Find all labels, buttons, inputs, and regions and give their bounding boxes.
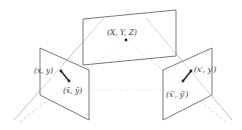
right-point-bar-label: (x̄′, ȳ′) <box>166 90 189 99</box>
world-point <box>125 39 128 42</box>
left-point-bar-label: (x̄, ȳ) <box>63 86 82 95</box>
world-point-label: (X, Y, Z) <box>107 28 137 37</box>
stereo-geometry-diagram: (X, Y, Z) (x, y) (x̄, ȳ) (x′, y′) (x̄′, … <box>0 0 242 130</box>
left-image-plane <box>40 48 89 120</box>
right-point <box>190 70 193 73</box>
left-point <box>60 70 63 73</box>
right-image-plane <box>163 48 212 120</box>
left-point-bar <box>68 80 71 83</box>
right-point-label: (x′, y′) <box>194 65 217 74</box>
left-point-label: (x, y) <box>34 66 53 75</box>
right-point-bar <box>182 80 185 83</box>
